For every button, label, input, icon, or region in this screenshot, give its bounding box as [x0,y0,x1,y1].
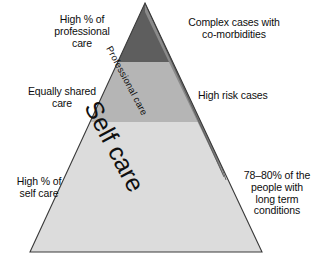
label-tier-top-left: High % of professional care [36,14,128,49]
label-tier-middle-left: Equally shared care [10,86,114,110]
label-tier-bottom-left: High % of self care [2,176,76,200]
label-tier-bottom-right: 78–80% of the people with long term cond… [236,170,318,217]
label-tier-top-right: Complex cases with co-morbidities [168,17,300,41]
label-tier-middle-right: High risk cases [198,90,310,102]
pyramid-diagram: Professional care Self care High % of pr… [0,0,318,261]
